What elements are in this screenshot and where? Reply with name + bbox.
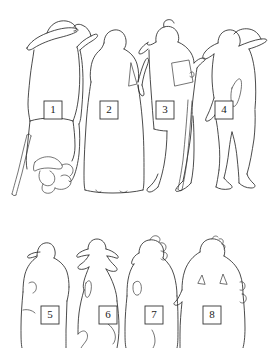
figure-label-1-text: 1 [50, 103, 56, 115]
figure-label-2[interactable]: 2 [100, 101, 118, 119]
figure-label-7-text: 7 [151, 308, 157, 320]
figure-label-3-text: 3 [162, 103, 168, 115]
figure-label-4-text: 4 [221, 103, 227, 115]
figure-label-7[interactable]: 7 [145, 306, 163, 324]
figure-label-3[interactable]: 3 [156, 101, 174, 119]
figure-label-6-text: 6 [105, 308, 111, 320]
figure-label-8-text: 8 [209, 308, 215, 320]
figure-key-diagram: 1 2 [0, 0, 275, 348]
figure-4-outline [203, 29, 267, 190]
figure-7-outline [125, 236, 178, 348]
figure-6-outline [77, 239, 119, 348]
figure-8-outline [174, 236, 246, 348]
figure-label-1[interactable]: 1 [44, 101, 62, 119]
figure-key-canvas: 1 2 [0, 0, 275, 348]
figure-label-8[interactable]: 8 [203, 306, 221, 324]
figure-label-2-text: 2 [106, 103, 112, 115]
figure-5-outline [21, 243, 69, 348]
figure-label-5-text: 5 [47, 308, 53, 320]
figure-label-5[interactable]: 5 [41, 306, 59, 324]
figure-label-4[interactable]: 4 [215, 101, 233, 119]
figure-label-6[interactable]: 6 [99, 306, 117, 324]
